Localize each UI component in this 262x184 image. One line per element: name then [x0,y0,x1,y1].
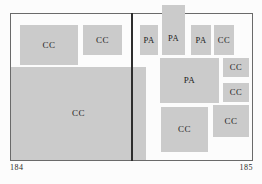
block-label: PA [195,36,206,45]
block-cc-bottom-right: CC [213,105,249,137]
gutter-divider-line [131,13,133,161]
page-number-right: 185 [240,163,254,172]
block-cc-top-left-2: CC [83,25,122,55]
block-label: CC [224,117,237,126]
block-label: PA [184,76,196,85]
block-cc-top-right: CC [214,25,234,55]
block-label: CC [72,109,85,118]
block-label: CC [230,88,242,97]
block-label: CC [218,36,230,45]
block-pa-top-1: PA [140,25,158,55]
block-label: CC [178,125,191,134]
block-cc-side-1: CC [223,58,249,77]
block-label: PA [168,34,179,43]
block-cc-side-2: CC [223,83,249,102]
block-cc-bottom: CC [161,107,208,152]
block-pa-top-2: PA [191,25,211,55]
block-cc-large-spread: CC [11,67,146,160]
block-label: CC [42,41,55,50]
block-cc-top-left: CC [20,25,78,65]
block-label: CC [96,36,109,45]
block-label: CC [230,63,242,72]
spread-outline: CC CC CC PA PA PA CC PA CC CC CC CC [10,13,253,161]
block-pa-top-bleed: PA [162,5,185,55]
block-label: PA [143,36,154,45]
page-number-left: 184 [10,163,24,172]
block-pa-middle: PA [160,58,219,103]
